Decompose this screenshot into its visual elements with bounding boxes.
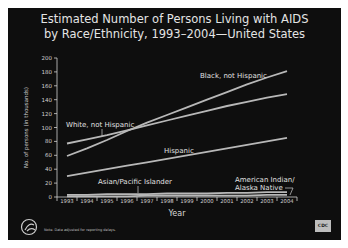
x-tick-label: 1996 bbox=[120, 198, 134, 204]
footnote: Note. Data adjusted for reporting delays… bbox=[44, 228, 116, 232]
cdc-logo: CDC bbox=[315, 220, 331, 232]
label-american-indian-1: American Indian/ bbox=[235, 176, 295, 184]
x-tick-label: 1995 bbox=[100, 198, 113, 204]
chart-slide: Estimated Number of Persons Living with … bbox=[8, 8, 341, 240]
hhs-logo-icon bbox=[20, 218, 38, 236]
x-tick-label: 2002 bbox=[240, 198, 253, 204]
line-chart: 0204060801001201401601802001993199419951… bbox=[8, 8, 341, 240]
x-tick-label: 2000 bbox=[200, 198, 214, 204]
x-tick-label: 1999 bbox=[180, 198, 193, 204]
series-line-0 bbox=[67, 94, 287, 143]
x-tick-label: 1997 bbox=[140, 198, 153, 204]
x-tick-label: 2004 bbox=[280, 198, 294, 204]
y-tick-label: 140 bbox=[42, 97, 53, 103]
y-tick-label: 200 bbox=[42, 55, 53, 61]
y-tick-label: 20 bbox=[45, 180, 52, 186]
x-tick-label: 1994 bbox=[80, 198, 94, 204]
y-tick-label: 120 bbox=[42, 111, 53, 117]
label-hispanic: Hispanic bbox=[164, 147, 194, 155]
label-asian: Asian/Pacific Islander bbox=[98, 178, 172, 186]
label-black: Black, not Hispanic bbox=[200, 72, 267, 80]
x-axis-label: Year bbox=[168, 209, 187, 218]
y-tick-label: 180 bbox=[42, 69, 53, 75]
y-axis-label: No. of persons (in thousands) bbox=[23, 87, 30, 168]
y-tick-label: 40 bbox=[45, 166, 52, 172]
x-tick-label: 2003 bbox=[260, 198, 273, 204]
label-american-indian-2: Alaska Native bbox=[235, 184, 283, 192]
label-white: White, not Hispanic bbox=[66, 121, 134, 129]
x-tick-label: 1998 bbox=[160, 198, 174, 204]
x-tick-label: 1993 bbox=[60, 198, 73, 204]
y-tick-label: 80 bbox=[45, 138, 52, 144]
y-tick-label: 100 bbox=[42, 125, 53, 131]
y-tick-label: 160 bbox=[42, 83, 53, 89]
y-tick-label: 0 bbox=[49, 194, 53, 200]
y-tick-label: 60 bbox=[45, 152, 52, 158]
x-tick-label: 2001 bbox=[220, 198, 233, 204]
